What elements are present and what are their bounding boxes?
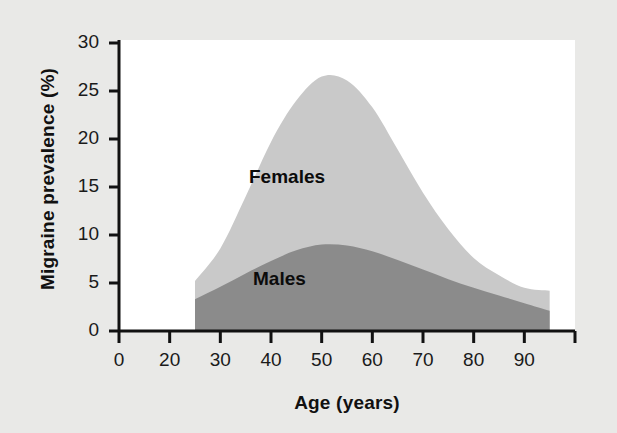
x-tick-label: 60 [352,349,392,371]
x-tick-label: 50 [302,349,342,371]
x-axis-title: Age (years) [119,392,575,414]
y-tick-label: 25 [59,79,99,101]
y-tick-label: 0 [59,319,99,341]
x-tick-label: 80 [454,349,494,371]
series-label-males: Males [253,268,306,290]
x-tick-label: 30 [200,349,240,371]
x-axis-ticks [119,331,575,343]
y-tick-label: 20 [59,127,99,149]
x-tick-label: 0 [99,349,139,371]
y-axis-title: Migraine prevalence (%) [37,49,59,309]
x-tick-label: 90 [504,349,544,371]
y-tick-label: 10 [59,223,99,245]
x-tick-label: 20 [150,349,190,371]
series-label-females: Females [249,166,325,188]
area-series-group [195,75,550,331]
y-tick-label: 30 [59,31,99,53]
chart-figure: Migraine prevalence (%) Age (years) 0510… [0,0,617,433]
x-tick-label: 70 [403,349,443,371]
y-tick-label: 15 [59,175,99,197]
y-tick-label: 5 [59,271,99,293]
x-tick-label: 40 [251,349,291,371]
